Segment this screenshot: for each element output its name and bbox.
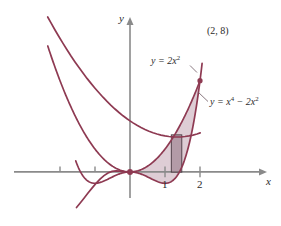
leader-line-quartic [198, 92, 208, 102]
y-axis-arrowhead [127, 17, 134, 25]
representative-rectangle [171, 135, 182, 172]
leader-line-parabola [190, 66, 197, 73]
point-marker-2-8 [197, 78, 202, 83]
figure-container: y x 1 2 y = 2x2 y = x4 − 2x2 (2, 8) [0, 0, 281, 226]
curve-label-parabola-text: y = 2x [151, 55, 177, 66]
curve-parabola-2x2 [48, 17, 201, 137]
x-axis-label: x [266, 176, 271, 187]
curve-label-quartic-text: y = x [210, 96, 231, 107]
y-axis-label: y [119, 13, 124, 24]
point-marker-origin [127, 169, 133, 175]
curve-label-parabola-exponent: 2 [177, 54, 180, 61]
curve-label-parabola: y = 2x2 [151, 55, 180, 66]
point-annotation-label: (2, 8) [207, 26, 229, 36]
x-tick-label-1: 1 [162, 179, 168, 190]
graph-canvas [0, 0, 281, 226]
x-tick-label-2: 2 [197, 179, 203, 190]
curve-quartic [77, 171, 131, 208]
curve-label-quartic: y = x4 − 2x2 [210, 96, 259, 107]
curve-label-quartic-exponent-2: 2 [255, 95, 258, 102]
curve-label-quartic-middle: − 2x [234, 96, 255, 107]
